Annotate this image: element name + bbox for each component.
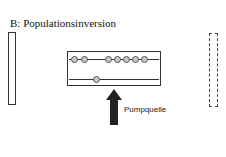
atom-upper	[81, 56, 88, 63]
atom-upper	[71, 56, 78, 63]
atom-upper	[123, 56, 130, 63]
atom-upper	[114, 56, 121, 63]
right-mirror-partial	[209, 33, 218, 107]
left-mirror	[8, 32, 16, 105]
atom-upper	[141, 56, 148, 63]
diagram-title: B: Populationsinversion	[10, 17, 116, 29]
pump-source-label: Pumpquelle	[124, 105, 166, 114]
pump-arrow-icon	[106, 89, 122, 125]
atom-upper	[132, 56, 139, 63]
atom-lower	[93, 76, 100, 83]
laser-medium	[67, 51, 161, 86]
lower-energy-level	[69, 79, 159, 80]
atom-upper	[105, 56, 112, 63]
